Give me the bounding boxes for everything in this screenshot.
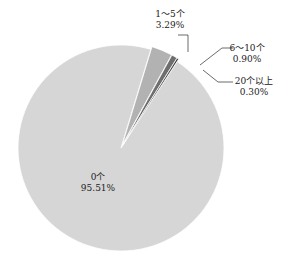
label-20plus-pct: 0.30% (227, 87, 281, 98)
label-0: 0个 95.51% (78, 172, 118, 194)
label-1-5-pct: 3.29% (150, 20, 190, 31)
label-0-pct: 95.51% (78, 183, 118, 194)
slice-0 (18, 45, 224, 251)
label-6-10: 6～10个 0.90% (225, 43, 269, 65)
label-6-10-name: 6～10个 (225, 43, 269, 54)
label-20plus-name: 20个以上 (227, 76, 281, 87)
label-20plus: 20个以上 0.30% (227, 76, 281, 98)
leader-line-1-5 (178, 35, 188, 52)
label-1-5-name: 1～5个 (150, 9, 190, 20)
pie-slices (18, 45, 224, 251)
pie-chart (0, 0, 283, 266)
label-0-name: 0个 (78, 172, 118, 183)
label-6-10-pct: 0.90% (225, 54, 269, 65)
label-1-5: 1～5个 3.29% (150, 9, 190, 31)
